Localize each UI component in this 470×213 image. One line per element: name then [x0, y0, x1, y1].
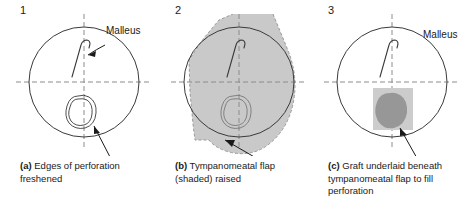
caption-prefix: (b) [175, 160, 187, 171]
graft-blob [375, 93, 407, 129]
malleus-leader-line [88, 45, 105, 55]
caption-prefix: (a) [20, 160, 32, 171]
panel-1-caption: (a) Edges of perforation freshened [20, 160, 160, 185]
caption-text: Edges of perforation freshened [20, 160, 120, 184]
panel-3-caption: (c) Graft underlaid beneath tympanomeata… [328, 160, 470, 198]
panel-1: 1 Malleus (a) Edges of perforation fresh… [2, 0, 157, 213]
panel-2: 2 Malleus (b) Tympanomeatal flap (shaded… [157, 0, 312, 213]
caption-prefix: (c) [328, 160, 340, 171]
panel-2-caption: (b) Tympanomeatal flap (shaded) raised [175, 160, 315, 185]
tympanomeatal-flap-shaded [189, 14, 295, 154]
malleus-handle [380, 40, 398, 77]
panel-3-diagram [310, 14, 465, 156]
malleus-handle [72, 40, 90, 77]
perforation-outer-edge [66, 95, 96, 128]
panel-2-diagram [157, 14, 312, 156]
surgical-figure: 1 Malleus (a) Edges of perforation fresh… [0, 0, 470, 213]
caption-text: Graft underlaid beneath tympanomeatal fl… [328, 160, 442, 196]
caption-text: Tympanomeatal flap (shaded) raised [175, 160, 275, 184]
panel-3: 3 (c) Graft underlaid beneath tympanomea… [310, 0, 465, 213]
perforation-arrowhead [94, 126, 100, 134]
malleus-label: Malleus [106, 25, 140, 36]
perforation-inner-edge [69, 99, 92, 126]
